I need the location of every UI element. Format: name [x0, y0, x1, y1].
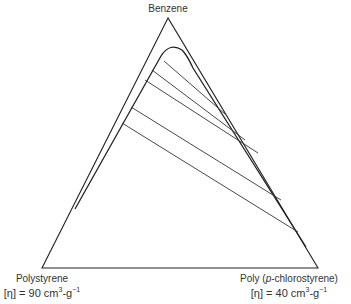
ternary-diagram [0, 0, 351, 304]
binodal-curve [75, 47, 306, 247]
exponent: −1 [319, 286, 327, 293]
poly-p-chlorostyrene-label: Poly (p-chlorostyrene) [240, 273, 338, 285]
viscosity-text: [η] = 90 cm [4, 287, 59, 299]
tie-line-3 [145, 80, 258, 153]
label-part: Poly ( [240, 273, 266, 284]
polystyrene-viscosity: [η] = 90 cm3-g−1 [4, 287, 80, 299]
vertex-label-benzene: Benzene [148, 3, 187, 15]
exponent: −1 [72, 286, 80, 293]
label-part: -chlorostyrene) [271, 273, 338, 284]
tie-lines [122, 61, 298, 232]
tie-line-4 [131, 107, 281, 200]
tie-line-1 [164, 61, 225, 114]
vertex-label-poly-p-chlorostyrene: Poly (p-chlorostyrene) [η] = 40 cm3-g−1 [240, 273, 338, 299]
tie-line-5 [122, 123, 298, 232]
benzene-label: Benzene [148, 3, 187, 14]
viscosity-text: [η] = 40 cm [251, 287, 306, 299]
polystyrene-label: Polystyrene [4, 273, 80, 285]
vertex-label-polystyrene: Polystyrene [η] = 90 cm3-g−1 [4, 273, 80, 299]
ternary-triangle [42, 18, 318, 268]
tie-line-2 [152, 70, 245, 140]
poly-p-chlorostyrene-viscosity: [η] = 40 cm3-g−1 [240, 287, 338, 299]
unit-text: -g [309, 287, 319, 299]
unit-text: -g [62, 287, 72, 299]
